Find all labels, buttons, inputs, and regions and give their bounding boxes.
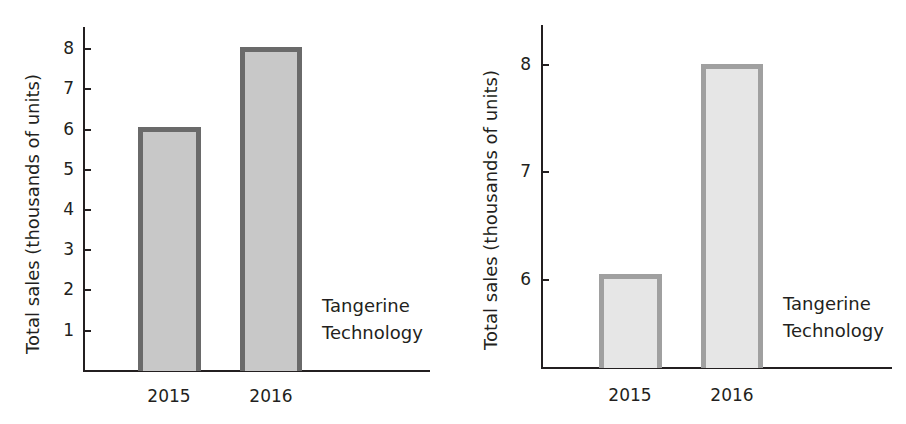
y-tick-label: 1 bbox=[50, 320, 74, 340]
y-tick bbox=[83, 249, 91, 251]
y-tick bbox=[541, 279, 549, 281]
y-tick bbox=[541, 171, 549, 173]
y-axis-label: Total sales (thousands of units) bbox=[22, 74, 43, 354]
series-annotation: Tangerine Technology bbox=[322, 292, 423, 346]
chart-left: Total sales (thousands of units) 8 7 6 5… bbox=[0, 0, 450, 424]
y-tick bbox=[83, 330, 91, 332]
bar-2015 bbox=[599, 274, 662, 368]
y-tick bbox=[83, 289, 91, 291]
y-tick-label: 2 bbox=[50, 279, 74, 299]
y-axis bbox=[83, 27, 85, 371]
y-tick-label: 5 bbox=[50, 159, 74, 179]
y-tick bbox=[83, 48, 91, 50]
bar-2015 bbox=[138, 127, 201, 371]
y-tick-label: 7 bbox=[50, 78, 74, 98]
y-tick bbox=[83, 209, 91, 211]
y-tick-label: 6 bbox=[50, 119, 74, 139]
x-tick-label: 2015 bbox=[599, 385, 661, 405]
y-axis-label: Total sales (thousands of units) bbox=[480, 70, 501, 350]
chart-right: Total sales (thousands of units) 8 7 6 2… bbox=[450, 0, 906, 424]
y-tick-label: 6 bbox=[507, 269, 531, 289]
bar-2016 bbox=[701, 64, 763, 368]
bar-2016 bbox=[240, 47, 302, 371]
annotation-line: Technology bbox=[322, 319, 423, 346]
x-tick-label: 2016 bbox=[240, 386, 302, 406]
y-axis bbox=[541, 25, 543, 368]
y-tick bbox=[541, 64, 549, 66]
y-tick-label: 3 bbox=[50, 239, 74, 259]
y-tick-label: 8 bbox=[50, 38, 74, 58]
y-tick bbox=[83, 88, 91, 90]
y-tick bbox=[83, 169, 91, 171]
series-annotation: Tangerine Technology bbox=[783, 290, 884, 344]
x-tick-label: 2015 bbox=[138, 386, 200, 406]
x-tick-label: 2016 bbox=[701, 385, 763, 405]
y-tick-label: 8 bbox=[507, 54, 531, 74]
y-tick-label: 4 bbox=[50, 199, 74, 219]
y-tick bbox=[83, 129, 91, 131]
annotation-line: Technology bbox=[783, 317, 884, 344]
y-tick-label: 7 bbox=[507, 161, 531, 181]
annotation-line: Tangerine bbox=[783, 290, 884, 317]
annotation-line: Tangerine bbox=[322, 292, 423, 319]
